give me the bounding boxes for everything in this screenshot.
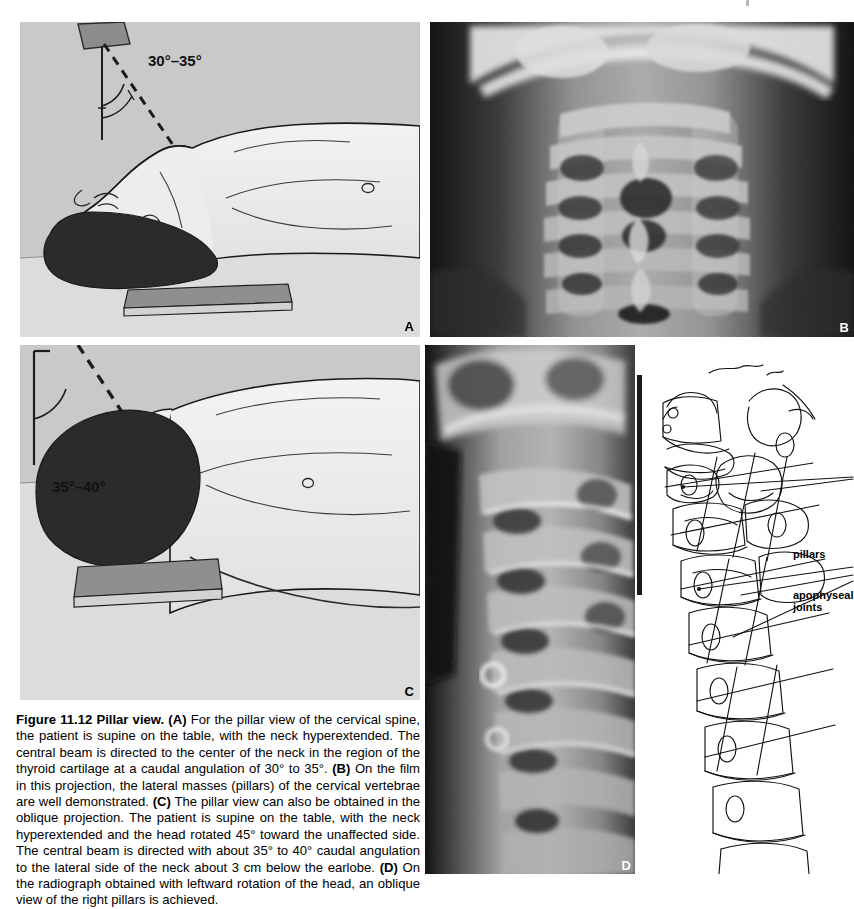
panel-a-illustration: A [20, 22, 420, 337]
panel-d-xray-image [425, 345, 635, 874]
panel-a-drawing [20, 22, 420, 337]
panel-c-angle-label: 35°–40° [52, 478, 106, 495]
panel-b-letter: B [840, 321, 849, 334]
running-head-stub [700, 0, 820, 7]
running-head-mark [746, 0, 749, 6]
tracing-label-pillars: pillars [793, 549, 825, 561]
panel-b-xray-image [430, 22, 854, 337]
panel-b-radiograph: B [430, 22, 854, 337]
panel-c-letter: C [405, 685, 414, 698]
panel-c-illustration: C [20, 345, 420, 700]
panel-a-letter: A [405, 320, 414, 333]
panel-c-drawing [20, 345, 420, 700]
tracing-label-apophyseal-joints: apophyseal joints [793, 590, 854, 614]
panel-d-radiograph: D [425, 345, 635, 874]
panel-a-angle-label: 30°–35° [148, 52, 202, 69]
figure-caption-plain: Figure 11.12 Pillar view. (A) For the pi… [0, 0, 1, 1]
panel-d-letter: D [622, 859, 631, 872]
figure-caption: Figure 11.12 Pillar view. (A) For the pi… [16, 712, 420, 909]
